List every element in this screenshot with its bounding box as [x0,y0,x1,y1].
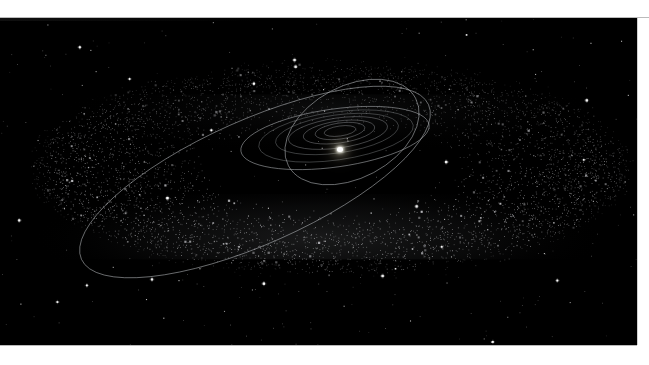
orbit-uranus-orbit [255,101,416,170]
plate-seam-right [637,18,638,345]
orbit-jupiter-orbit [286,111,389,155]
orbit-group [56,48,454,316]
kuiper-belt-disk [0,18,637,345]
paper-margin-bottom [0,345,649,365]
orbit-neptune-orbit [237,96,433,180]
background-starfield [0,18,637,345]
plate-top-edge [0,18,637,21]
orbit-saturn-orbit [273,107,401,162]
illustration-plate [0,18,637,345]
orbit-overlay [0,18,637,345]
image-page [0,0,649,365]
paper-margin-top [0,0,649,18]
sun-marker [337,147,343,152]
paper-margin-right [637,0,649,365]
orbit-sedna-like-eccentric-orbit [56,48,454,316]
orbit-inner-planet-orbit-3 [302,116,376,148]
orbit-pluto-orbit-inclined [267,58,437,207]
orbit-inner-planet-orbit-2 [314,120,366,143]
orbit-inner-planet-orbit-1 [323,124,356,138]
plate-seam-bottom [0,345,637,346]
